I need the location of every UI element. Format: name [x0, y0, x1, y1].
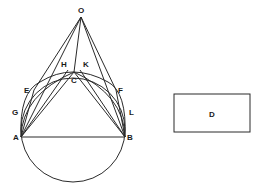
label-B: B — [127, 133, 133, 142]
label-F: F — [118, 86, 123, 95]
geometry-figure: O H K C E F G L A B D — [0, 0, 260, 191]
label-A: A — [13, 133, 19, 142]
line-OB — [81, 17, 125, 137]
line-AE — [21, 90, 34, 137]
label-H: H — [61, 60, 67, 69]
label-C: C — [71, 76, 77, 85]
label-G: G — [12, 108, 18, 117]
line-OC — [74, 17, 81, 72]
label-E: E — [24, 86, 30, 95]
label-D: D — [209, 110, 215, 119]
label-O: O — [78, 6, 84, 15]
line-CB — [74, 72, 125, 137]
line-AC — [21, 72, 74, 137]
label-K: K — [83, 60, 89, 69]
label-L: L — [129, 108, 134, 117]
